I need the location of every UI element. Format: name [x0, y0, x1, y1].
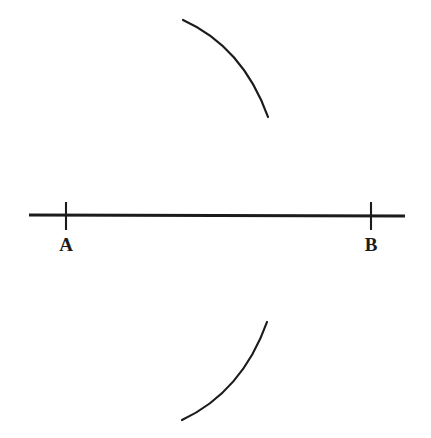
point-label-a: A: [51, 235, 81, 254]
compass-arc-upper: [183, 20, 268, 117]
construction-canvas: [0, 0, 431, 438]
line-segment-ab: [29, 215, 405, 216]
point-label-b: B: [356, 235, 386, 254]
geometry-diagram: A B: [0, 0, 431, 438]
compass-arc-lower: [182, 322, 267, 420]
